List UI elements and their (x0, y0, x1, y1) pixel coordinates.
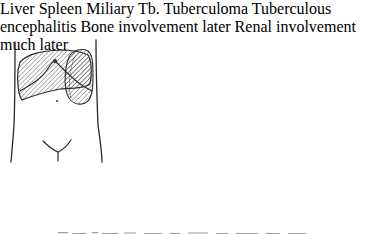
caption-glyph-tops (52, 229, 372, 234)
torso-illustration (11, 40, 102, 162)
spleen-shape (65, 50, 93, 105)
tb-dissemination-figure (0, 0, 380, 234)
figure-caption-cropped (52, 228, 372, 234)
